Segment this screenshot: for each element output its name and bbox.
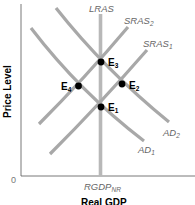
label-ad1: AD1 [137,144,155,156]
origin-label: 0 [11,175,16,185]
label-e4: E4 [61,81,72,93]
label-e2: E2 [129,80,140,92]
x-axis-title: Real GDP [81,197,127,205]
label-ad2: AD2 [162,127,180,139]
point-e4 [75,83,82,90]
y-axis-title: Price Level [2,65,13,118]
x-tick-rgdp-nr: RGDPNR [84,181,121,193]
label-sras2: SRAS2 [124,15,154,27]
point-e1 [98,104,105,111]
ad-as-diagram: E3 E2 E4 E1 LRAS SRAS2 SRAS1 AD2 AD1 0 R… [0,0,195,205]
label-lras: LRAS [89,3,114,14]
label-e1: E1 [108,102,119,114]
point-e3 [98,59,105,66]
label-e3: E3 [108,57,119,69]
label-sras1: SRAS1 [143,38,173,50]
point-e2 [119,81,126,88]
